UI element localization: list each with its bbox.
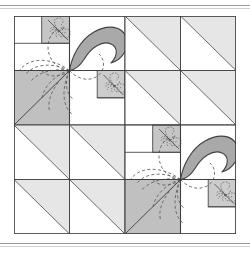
top-rule (0, 5, 250, 6)
quadrant-bottom-right (125, 125, 236, 234)
quadrant-top-right (125, 16, 236, 125)
bottom-rule-secondary (0, 246, 250, 247)
top-rule-secondary (0, 8, 250, 9)
quadrant-bottom-left (14, 125, 125, 234)
tiling-plot (14, 16, 236, 234)
bottom-rule (0, 243, 250, 244)
fractal-tiling-svg (14, 16, 236, 234)
figure-root: Self-similar square tiling: 4 x 4 grid o… (0, 0, 250, 255)
quadrant-top-left (14, 16, 127, 125)
